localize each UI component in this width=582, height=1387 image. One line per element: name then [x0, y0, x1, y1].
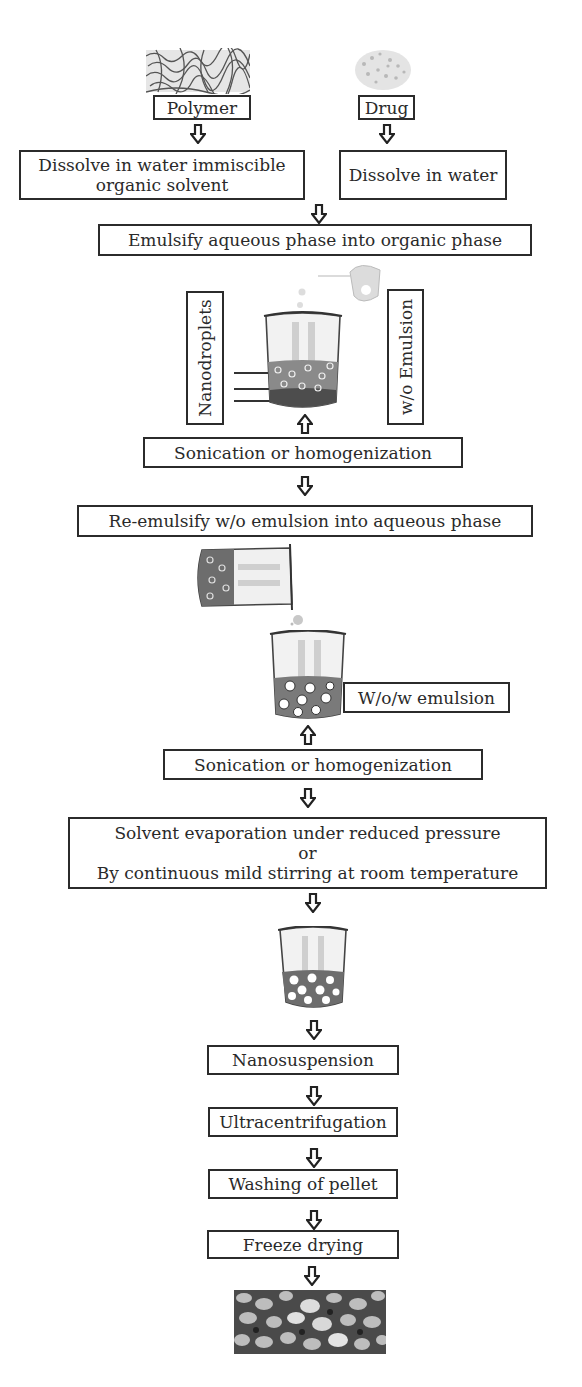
- down-arrow-icon: [379, 124, 395, 144]
- down-arrow-icon: [304, 1266, 320, 1286]
- down-arrow-icon: [300, 788, 316, 808]
- polymer-fibers-image: [146, 48, 250, 94]
- sonication-step-1: Sonication or homogenization: [143, 437, 463, 468]
- wo-emulsion-label: w/o Emulsion: [387, 289, 424, 425]
- solvent-removal-line-2: or: [298, 843, 316, 863]
- down-arrow-icon: [306, 1020, 322, 1040]
- beaker-nanoparticles-image: [278, 926, 348, 1012]
- wow-emulsion-label: W/o/w emulsion: [343, 682, 510, 713]
- down-arrow-icon: [190, 124, 206, 144]
- emulsify-step: Emulsify aqueous phase into organic phas…: [98, 224, 532, 256]
- washing-step: Washing of pellet: [208, 1169, 398, 1199]
- down-arrow-icon: [311, 204, 327, 224]
- re-emulsify-step: Re-emulsify w/o emulsion into aqueous ph…: [77, 505, 533, 537]
- solvent-removal-line-3: By continuous mild stirring at room temp…: [97, 863, 519, 883]
- droplet-icon: [292, 614, 304, 626]
- up-arrow-icon: [300, 725, 316, 745]
- pouring-beaker-image: [194, 544, 304, 626]
- nanosuspension-step: Nanosuspension: [207, 1045, 399, 1075]
- drug-label: Drug: [358, 95, 415, 120]
- up-arrow-icon: [297, 414, 313, 434]
- solvent-removal-step: Solvent evaporation under reduced pressu…: [68, 817, 547, 889]
- down-arrow-icon: [297, 476, 313, 496]
- dissolve-polymer-line-1: Dissolve in water immiscible: [38, 155, 285, 175]
- wo-emulsion-text: w/o Emulsion: [396, 299, 416, 415]
- sonication-step-2: Sonication or homogenization: [163, 749, 483, 780]
- dissolve-drug-step: Dissolve in water: [339, 150, 507, 200]
- nanodroplets-text: Nanodroplets: [195, 299, 215, 416]
- nanodroplets-label: Nanodroplets: [186, 291, 224, 425]
- down-arrow-icon: [306, 1210, 322, 1230]
- down-arrow-icon: [305, 893, 321, 913]
- ultracentrifugation-step: Ultracentrifugation: [208, 1107, 398, 1137]
- dissolve-polymer-line-2: organic solvent: [96, 175, 229, 195]
- beaker-wo-emulsion-image: [262, 262, 382, 412]
- polymer-label: Polymer: [153, 95, 251, 120]
- down-arrow-icon: [306, 1086, 322, 1106]
- down-arrow-icon: [306, 1148, 322, 1168]
- nanoparticle-powder-sem-image: [234, 1290, 386, 1354]
- beaker-wow-emulsion-image: [268, 630, 348, 722]
- drug-powder-image: [350, 44, 416, 96]
- dissolve-polymer-step: Dissolve in water immiscible organic sol…: [19, 150, 305, 200]
- freeze-drying-step: Freeze drying: [207, 1230, 399, 1259]
- solvent-removal-line-1: Solvent evaporation under reduced pressu…: [114, 823, 500, 843]
